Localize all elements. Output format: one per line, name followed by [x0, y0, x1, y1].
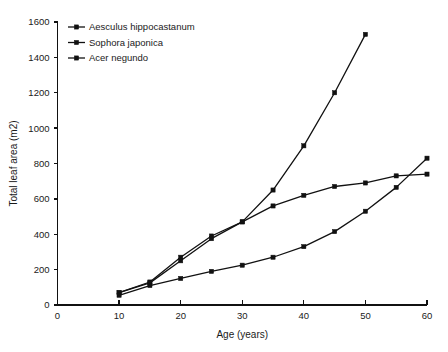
legend-item-1[interactable]: Aesculus hippocastanum [68, 21, 195, 32]
y-tick-label: 200 [34, 264, 50, 275]
legend-marker [74, 40, 78, 44]
series-line [119, 158, 427, 295]
data-point-marker [333, 91, 337, 95]
data-point-marker [394, 185, 398, 189]
data-point-marker [363, 209, 367, 213]
series-line [119, 34, 365, 292]
data-point-marker [240, 220, 244, 224]
data-point-marker [179, 255, 183, 259]
y-axis-ticks: 02004006008001000120014001600 [28, 16, 57, 310]
chart-legend: Aesculus hippocastanumSophora japonicaAc… [68, 21, 195, 63]
chart-container: 02004006008001000120014001600 0102030405… [0, 0, 448, 352]
y-axis-title: Total leaf area (m2) [8, 120, 19, 206]
y-tick-label: 400 [34, 229, 50, 240]
data-point-marker [240, 263, 244, 267]
data-point-marker [271, 255, 275, 259]
series-layer [117, 32, 429, 297]
legend-marker [74, 56, 78, 60]
data-point-marker [425, 156, 429, 160]
data-point-marker [179, 276, 183, 280]
y-tick-label: 600 [34, 193, 50, 204]
x-tick-label: 40 [299, 310, 310, 321]
y-tick-label: 1200 [28, 87, 49, 98]
series-3 [117, 156, 429, 297]
data-point-marker [333, 184, 337, 188]
x-tick-label: 20 [175, 310, 186, 321]
legend-item-2[interactable]: Sophora japonica [68, 37, 164, 48]
legend-marker [74, 25, 78, 29]
series-1 [117, 32, 368, 294]
data-point-marker [394, 174, 398, 178]
x-axis-title: Age (years) [216, 329, 268, 340]
x-tick-label: 10 [114, 310, 125, 321]
legend-label: Aesculus hippocastanum [89, 21, 195, 32]
x-tick-label: 50 [360, 310, 371, 321]
data-point-marker [363, 181, 367, 185]
data-point-marker [271, 204, 275, 208]
data-point-marker [333, 230, 337, 234]
x-axis-ticks: 0102030405060 [55, 300, 432, 321]
data-point-marker [209, 269, 213, 273]
legend-item-3[interactable]: Acer negundo [68, 52, 148, 63]
y-tick-label: 800 [34, 158, 50, 169]
data-point-marker [425, 172, 429, 176]
data-point-marker [209, 234, 213, 238]
data-point-marker [363, 32, 367, 36]
legend-label: Acer negundo [89, 52, 148, 63]
legend-label: Sophora japonica [89, 37, 164, 48]
data-point-marker [148, 283, 152, 287]
x-tick-label: 0 [55, 310, 60, 321]
data-point-marker [302, 144, 306, 148]
y-tick-label: 1000 [28, 123, 49, 134]
data-point-marker [271, 188, 275, 192]
data-point-marker [302, 193, 306, 197]
x-tick-label: 60 [422, 310, 433, 321]
x-tick-label: 30 [237, 310, 248, 321]
y-tick-label: 0 [44, 299, 49, 310]
line-chart: 02004006008001000120014001600 0102030405… [0, 0, 448, 352]
data-point-marker [117, 293, 121, 297]
y-tick-label: 1400 [28, 52, 49, 63]
y-tick-label: 1600 [28, 16, 49, 27]
data-point-marker [302, 245, 306, 249]
